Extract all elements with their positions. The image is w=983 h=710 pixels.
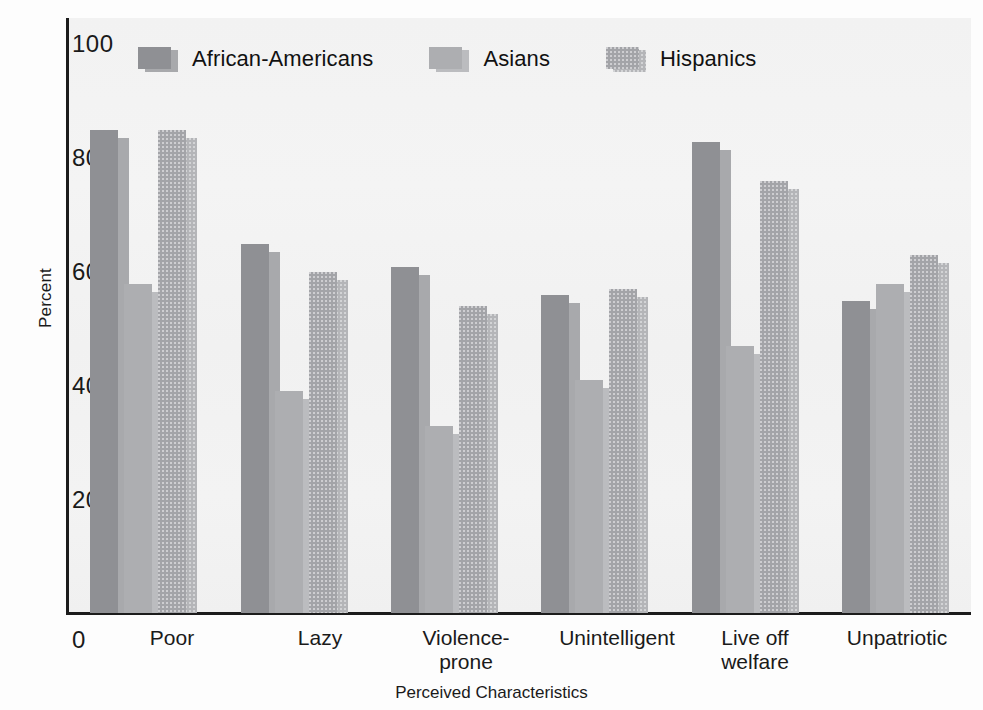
plot-area-background [66, 18, 971, 613]
legend-label-hispanics: Hispanics [660, 46, 756, 72]
x-label-line: welfare [675, 650, 835, 674]
y-tick-label-60: 60 [72, 260, 100, 284]
legend-swatch-icon-hispanics [606, 47, 646, 72]
y-tick-label-40: 40 [72, 374, 100, 398]
x-label-poor: Poor [92, 626, 252, 650]
x-axis-title: Perceived Characteristics [0, 683, 983, 703]
legend-label-asians: Asians [483, 46, 550, 72]
x-label-lazy: Lazy [240, 626, 400, 650]
y-axis-title: Percent [36, 238, 56, 358]
y-tick-label-0: 0 [72, 628, 85, 652]
legend-label-african-americans: African-Americans [192, 46, 373, 72]
legend-item-african-americans: African-Americans [138, 46, 373, 72]
x-label-line: Lazy [240, 626, 400, 650]
x-axis-line [66, 612, 971, 615]
y-tick-label-100: 100 [72, 32, 114, 56]
y-axis-line [66, 18, 69, 615]
x-label-line: Poor [92, 626, 252, 650]
x-label-line: Unpatriotic [812, 626, 982, 650]
legend-item-hispanics: Hispanics [606, 46, 756, 72]
legend-item-asians: Asians [429, 46, 550, 72]
bar-chart-figure: 100 80 60 40 20 0 Percent Perceived Char… [0, 0, 983, 710]
x-label-unpatriotic: Unpatriotic [812, 626, 982, 650]
legend-swatch-icon-african-americans [138, 47, 178, 72]
x-label-line: Live off [675, 626, 835, 650]
chart-legend: African-Americans Asians Hispanics [138, 46, 756, 72]
legend-swatch-icon-asians [429, 47, 469, 72]
x-label-line: prone [386, 650, 546, 674]
y-tick-label-80: 80 [72, 146, 100, 170]
y-tick-label-20: 20 [72, 488, 100, 512]
x-label-live-off-welfare: Live off welfare [675, 626, 835, 675]
